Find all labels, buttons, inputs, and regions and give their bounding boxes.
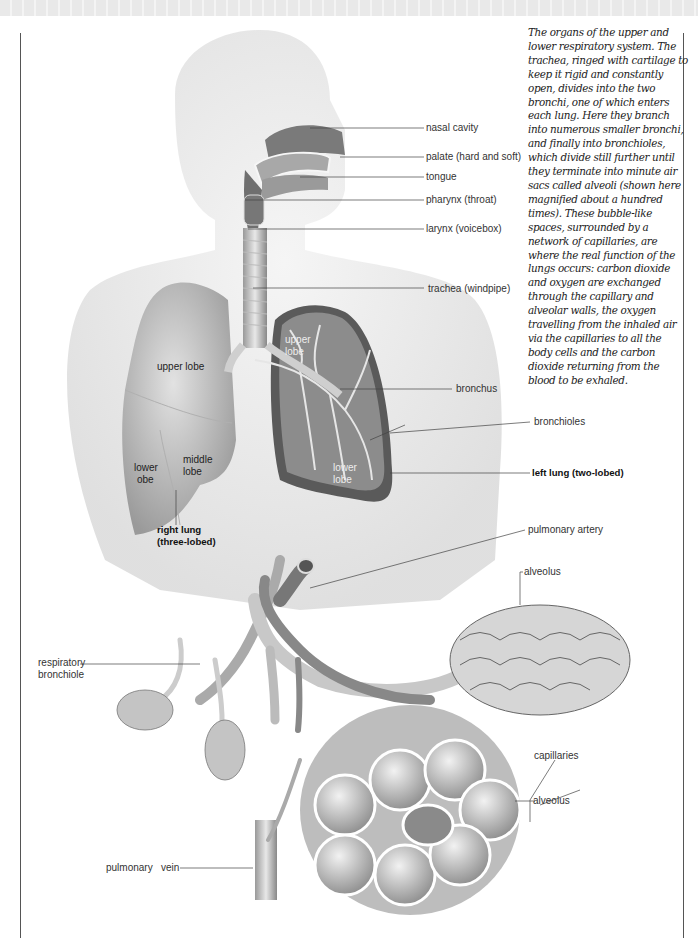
alveolar-cluster-small <box>117 690 245 780</box>
label-left-lung: left lung (two-lobed) <box>532 467 624 479</box>
capillary-alveolar-cluster <box>450 605 630 715</box>
label-right-middle-lobe: middle lobe <box>183 454 212 478</box>
label-respiratory-bronchiole-line2: bronchiole <box>38 669 85 681</box>
label-pulmonary-artery: pulmonary artery <box>528 524 603 536</box>
label-nasal-cavity: nasal cavity <box>426 122 478 134</box>
label-right-middle-lobe-line2: lobe <box>183 466 212 478</box>
label-bronchus: bronchus <box>456 383 497 395</box>
label-pharynx: pharynx (throat) <box>426 194 497 206</box>
label-right-lung-line2: (three-lobed) <box>157 536 216 548</box>
label-left-upper-lobe-line2: lobe <box>285 346 311 358</box>
label-left-lower-lobe: lower lobe <box>333 462 357 486</box>
label-right-lower-lobe-line1: lower <box>134 462 158 474</box>
label-trachea: trachea (windpipe) <box>428 283 510 295</box>
label-right-lung-line1: right lung <box>157 524 216 536</box>
label-bronchioles: bronchioles <box>534 416 585 428</box>
label-right-lung: right lung (three-lobed) <box>157 524 216 548</box>
label-right-lower-lobe: lower obe <box>134 462 158 486</box>
label-left-lower-lobe-line1: lower <box>333 462 357 474</box>
label-respiratory-bronchiole-line1: respiratory <box>38 657 85 669</box>
label-alveolus-bottom: alveolus <box>533 795 570 807</box>
label-left-upper-lobe: upper lobe <box>285 334 311 358</box>
label-alveolus-top: alveolus <box>524 566 561 578</box>
label-pulmonary-vein: pulmonary vein <box>106 862 179 874</box>
label-right-middle-lobe-line1: middle <box>183 454 212 466</box>
label-respiratory-bronchiole: respiratory bronchiole <box>38 657 85 681</box>
label-palate: palate (hard and soft) <box>426 151 521 163</box>
label-tongue: tongue <box>426 171 457 183</box>
figure-caption: The organs of the upper and lower respir… <box>528 26 688 388</box>
alveolus-cross-section <box>300 705 520 915</box>
label-right-upper-lobe: upper lobe <box>157 361 204 373</box>
label-larynx: larynx (voicebox) <box>426 223 502 235</box>
label-capillaries: capillaries <box>534 750 578 762</box>
label-left-upper-lobe-line1: upper <box>285 334 311 346</box>
label-right-lower-lobe-line2: obe <box>134 474 158 486</box>
pulmonary-artery-opening <box>298 559 314 573</box>
label-left-lower-lobe-line2: lobe <box>333 474 357 486</box>
